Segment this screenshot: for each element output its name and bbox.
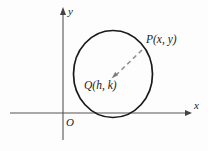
origin-label: O [66,117,74,128]
figure-canvas [0,0,208,151]
x-axis-label: x [194,100,199,111]
x-axis-arrowhead [185,110,192,116]
circle-coordinate-diagram: y x O P(x, y) Q(h, k) [0,0,208,151]
point-q-label: Q(h, k) [84,80,117,92]
circle-shape [74,31,153,118]
point-p-label: P(x, y) [146,34,177,46]
y-axis-arrowhead [60,7,66,15]
radius-dashed-line [116,50,142,75]
radius-segment [112,50,143,79]
y-axis-label: y [68,6,73,17]
